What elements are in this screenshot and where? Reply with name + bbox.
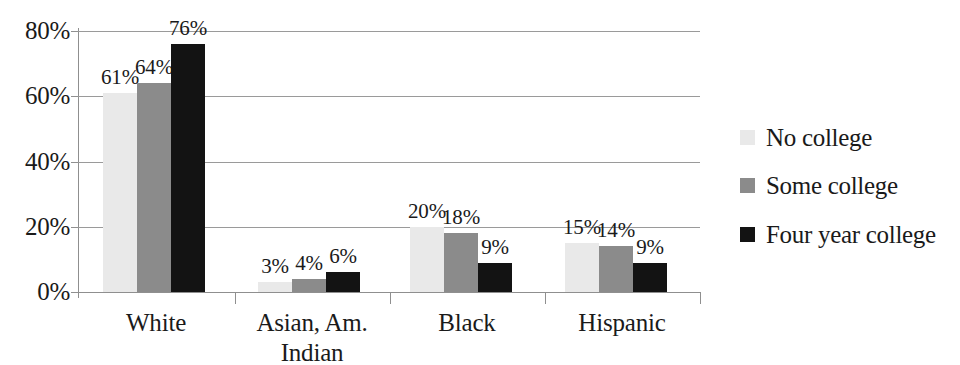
bar (478, 263, 512, 292)
bar-value-label: 64% (135, 57, 173, 78)
bar-value-label: 3% (261, 256, 289, 277)
y-axis-tick-label: 0% (4, 279, 70, 304)
x-axis-tick-mark (700, 292, 701, 304)
bar (410, 227, 444, 292)
bar-value-label: 6% (329, 246, 357, 267)
x-axis-line (78, 292, 700, 293)
bar-value-label: 9% (481, 237, 509, 258)
legend-item: Some college (740, 168, 898, 202)
bar-value-label: 61% (101, 67, 139, 88)
legend-swatch-icon (740, 130, 755, 145)
y-axis-tick-label: 80% (4, 18, 70, 43)
grouped-bar-chart: 0%20%40%60%80% 61%64%76%3%4%6%20%18%9%15… (0, 0, 960, 365)
legend-label: Four year college (766, 221, 936, 248)
bar (171, 44, 205, 292)
legend-item: Four year college (740, 217, 936, 251)
bar-value-label: 76% (169, 18, 207, 39)
y-axis-tick-label: 20% (4, 214, 70, 239)
legend-swatch-icon (740, 227, 755, 242)
bar (326, 272, 360, 292)
x-axis-tick-mark (235, 292, 236, 304)
y-axis-tick-label: 60% (4, 83, 70, 108)
legend-label: No college (766, 124, 872, 151)
legend-item: No college (740, 120, 872, 154)
plot-area: 61%64%76%3%4%6%20%18%9%15%14%9% (78, 31, 700, 292)
legend-swatch-icon (740, 178, 755, 193)
x-axis-tick-mark (545, 292, 546, 304)
bar-value-label: 15% (563, 217, 601, 238)
bar-value-label: 4% (295, 253, 323, 274)
bar-value-label: 14% (597, 220, 635, 241)
bar (565, 243, 599, 292)
bar (258, 282, 292, 292)
legend-label: Some college (766, 172, 898, 199)
bar (103, 93, 137, 292)
bar-value-label: 9% (636, 237, 664, 258)
bar-value-label: 18% (442, 207, 480, 228)
bar (292, 279, 326, 292)
y-axis-tick-mark (71, 292, 79, 293)
bar (444, 233, 478, 292)
x-axis-tick-mark (390, 292, 391, 304)
y-axis-tick-label: 40% (4, 149, 70, 174)
bar-value-label: 20% (408, 201, 446, 222)
bar (599, 246, 633, 292)
x-axis-category-label: Hispanic (512, 308, 732, 338)
bar (633, 263, 667, 292)
bar (137, 83, 171, 292)
